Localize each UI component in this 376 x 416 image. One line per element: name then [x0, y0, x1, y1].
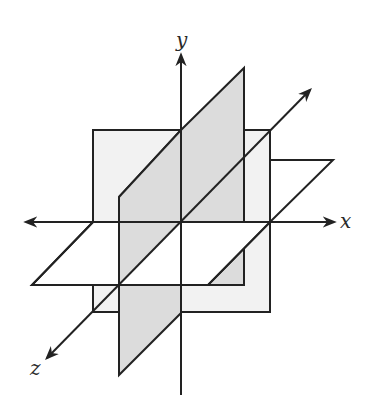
z-axis-label: z: [29, 356, 41, 380]
x-axis-label: x: [340, 209, 351, 233]
y-axis-label: y: [175, 28, 188, 52]
coordinate-planes-diagram: y x z: [0, 0, 376, 416]
